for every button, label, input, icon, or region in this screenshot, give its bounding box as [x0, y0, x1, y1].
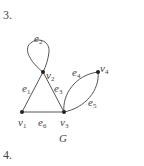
label-e6: e6: [38, 116, 47, 130]
label-e1: e1: [22, 82, 31, 96]
label-e3: e3: [54, 82, 63, 96]
vertex-v3: [62, 110, 66, 114]
graph-name: G: [59, 132, 67, 144]
label-v3: v3: [60, 116, 69, 130]
label-e2: e2: [34, 32, 43, 46]
graph-diagram: v1 v2 v3 v4 e1 e2 e3 e4 e5 e6 G: [0, 0, 144, 166]
label-v2: v2: [46, 69, 55, 83]
label-v4: v4: [100, 62, 109, 76]
label-e5: e5: [88, 96, 97, 110]
label-e4: e4: [72, 66, 81, 80]
vertex-v2: [41, 70, 45, 74]
vertex-v1: [20, 110, 24, 114]
label-v1: v1: [18, 116, 27, 130]
